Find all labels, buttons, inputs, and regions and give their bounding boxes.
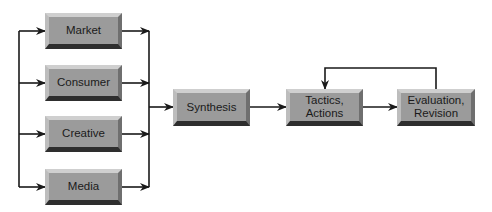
node-market[interactable]: Market <box>45 13 122 49</box>
node-consumer[interactable]: Consumer <box>45 65 122 101</box>
node-media[interactable]: Media <box>45 169 122 205</box>
node-evaluation-label: Evaluation, Revision <box>408 94 465 120</box>
node-media-label: Media <box>68 180 99 193</box>
node-tactics-actions[interactable]: Tactics, Actions <box>286 89 363 126</box>
node-synthesis-label: Synthesis <box>187 101 237 114</box>
node-tactics-label: Tactics, Actions <box>305 94 343 120</box>
node-market-label: Market <box>66 24 101 37</box>
feedback-loop-arrow <box>325 68 436 89</box>
node-consumer-label: Consumer <box>57 76 110 89</box>
node-evaluation-revision[interactable]: Evaluation, Revision <box>397 89 475 126</box>
node-creative-label: Creative <box>62 127 105 140</box>
node-creative[interactable]: Creative <box>45 116 122 152</box>
node-synthesis[interactable]: Synthesis <box>173 89 250 126</box>
